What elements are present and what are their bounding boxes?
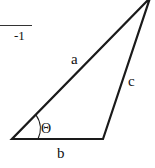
side-label-a: a <box>71 52 78 67</box>
angle-arc <box>36 115 40 139</box>
side-label-b: b <box>57 146 65 161</box>
angle-label-theta: Θ <box>41 121 51 136</box>
side-label-c: c <box>128 74 135 89</box>
triangle <box>12 0 150 139</box>
